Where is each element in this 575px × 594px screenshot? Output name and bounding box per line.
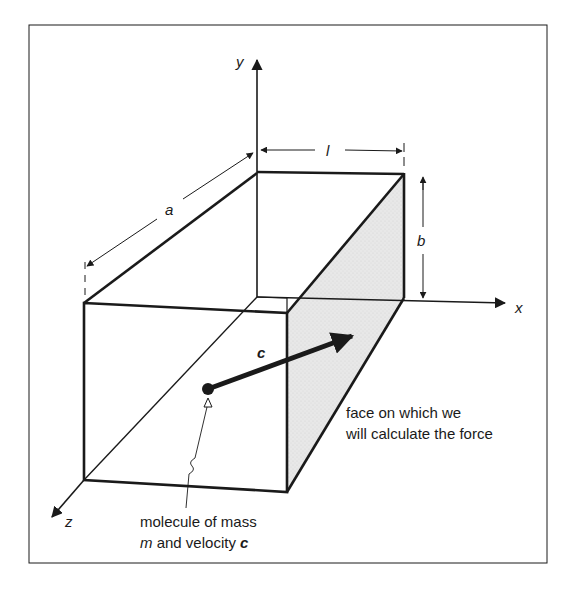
label-b: b [417, 232, 425, 249]
and-velocity-text: and velocity [153, 534, 241, 551]
label-a: a [165, 201, 173, 218]
box-edge-top-left [84, 173, 257, 303]
molecule-pointer [186, 407, 207, 508]
box-diagram: a l b y x z c face on which we will calc… [0, 0, 575, 594]
molecule-annotation-line1: molecule of mass [140, 513, 257, 530]
z-axis [52, 480, 84, 517]
velocity-symbol: c [240, 534, 249, 551]
box-front-face [84, 303, 287, 492]
molecule-dot [202, 383, 214, 395]
dimension-l-arrow-right [345, 150, 402, 151]
molecule-annotation-line2: m and velocity c [140, 534, 249, 551]
box-edge-back-top [257, 172, 404, 174]
mass-symbol: m [140, 534, 153, 551]
face-annotation-line2: will calculate the force [345, 425, 493, 442]
hollow-arrowhead-icon [204, 398, 212, 407]
label-l: l [326, 142, 330, 159]
label-y: y [235, 53, 245, 70]
label-z: z [64, 513, 73, 530]
shaded-face [287, 173, 404, 492]
dimension-a-arrow-upper [183, 153, 253, 199]
z-axis-inner [84, 297, 257, 480]
dimension-a-arrow-lower [87, 219, 157, 266]
label-c: c [257, 344, 266, 361]
label-x: x [514, 299, 523, 316]
face-annotation-line1: face on which we [346, 404, 461, 421]
